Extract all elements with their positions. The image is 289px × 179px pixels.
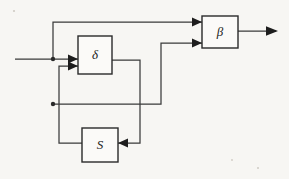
mid-branch-to-beta-wire	[53, 43, 204, 104]
block-diagram-canvas: δ β S	[0, 0, 289, 179]
arrowhead-beta-bottom-icon	[192, 39, 202, 48]
beta-block-label: β	[216, 24, 224, 39]
scan-speck	[257, 167, 259, 169]
arrowhead-output-icon	[266, 26, 278, 36]
arrowhead-s-input-icon	[118, 139, 128, 148]
scan-speck	[231, 159, 233, 161]
arrowhead-delta-bottom-icon	[68, 62, 78, 71]
diagram-svg: δ β S	[0, 0, 289, 179]
delta-block[interactable]: δ	[78, 36, 112, 74]
arrowhead-delta-top-icon	[68, 55, 78, 64]
input-junction-dot	[51, 57, 55, 61]
input-branch-to-beta-wire	[53, 22, 204, 59]
mid-junction-dot	[51, 102, 55, 106]
delta-block-label: δ	[92, 47, 99, 62]
s-block-label: S	[97, 137, 104, 152]
arrowhead-beta-top-icon	[192, 18, 202, 27]
scan-speck	[13, 10, 15, 12]
beta-block[interactable]: β	[202, 16, 238, 48]
s-block[interactable]: S	[82, 128, 118, 162]
